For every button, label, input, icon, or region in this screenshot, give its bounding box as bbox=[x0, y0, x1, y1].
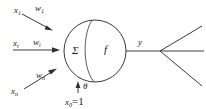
input-arrow-1 bbox=[22, 14, 53, 31]
threshold-theta-label: θ bbox=[83, 82, 87, 91]
summation-symbol: Σ bbox=[72, 45, 79, 56]
activation-function-symbol: f bbox=[104, 44, 107, 55]
input-weight-3-subscript: n bbox=[42, 75, 45, 81]
input-signal-2-subscript: i bbox=[17, 43, 19, 49]
bias-input-label: x0=1 bbox=[65, 96, 84, 107]
input-weight-label-2: wi bbox=[33, 38, 41, 47]
input-weight-2-subscript: i bbox=[39, 42, 41, 48]
bias-input-subscript: 0 bbox=[69, 102, 72, 108]
output-label: y bbox=[138, 38, 142, 47]
bias-input-equals: =1 bbox=[72, 95, 84, 107]
input-signal-label-1: x1 bbox=[14, 6, 21, 15]
neuron-diagram: x1 w1 xi wi xn wn Σ f θ x0=1 y bbox=[0, 0, 206, 109]
input-weight-label-3: wn bbox=[36, 71, 45, 80]
input-signal-3-subscript: n bbox=[15, 91, 18, 97]
input-weight-1-subscript: 1 bbox=[41, 8, 44, 14]
threshold-arrow bbox=[76, 81, 81, 93]
input-signal-label-2: xi bbox=[13, 39, 19, 48]
input-signal-1-subscript: 1 bbox=[18, 10, 21, 16]
neuron-divider-curve bbox=[85, 20, 94, 82]
neuron-diagram-canvas bbox=[0, 0, 206, 109]
input-weight-label-1: w1 bbox=[35, 4, 44, 13]
input-arrow-2 bbox=[13, 47, 60, 52]
input-signal-label-3: xn bbox=[11, 87, 18, 96]
output-fanout bbox=[160, 26, 204, 86]
